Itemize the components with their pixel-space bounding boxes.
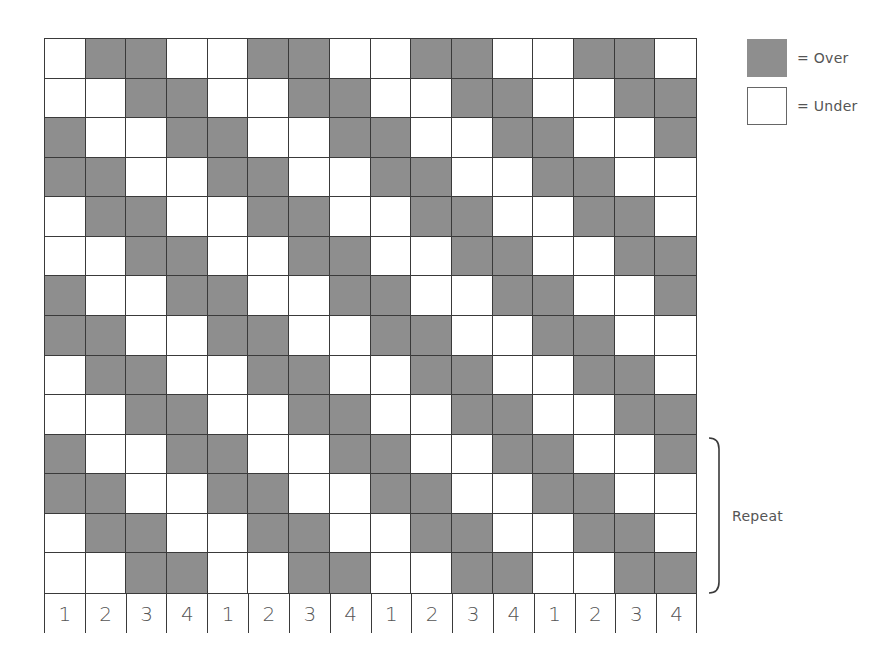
column-number: 1 xyxy=(207,594,248,633)
grid-cell xyxy=(493,356,534,396)
column-number: 2 xyxy=(411,594,452,633)
grid-cell xyxy=(452,474,493,514)
grid-cell xyxy=(330,553,371,593)
grid-cell xyxy=(371,276,412,316)
grid-cell xyxy=(45,356,86,396)
grid-cell xyxy=(574,276,615,316)
grid-cell xyxy=(493,435,534,475)
column-number: 4 xyxy=(656,594,697,633)
grid-cell xyxy=(452,197,493,237)
grid-cell xyxy=(289,553,330,593)
grid-cell xyxy=(45,474,86,514)
grid-cell xyxy=(452,553,493,593)
grid-cell xyxy=(167,356,208,396)
grid-cell xyxy=(330,237,371,277)
grid-cell xyxy=(208,356,249,396)
grid-cell xyxy=(248,197,289,237)
grid-cell xyxy=(615,237,656,277)
grid-cell xyxy=(574,395,615,435)
grid-cell xyxy=(126,79,167,119)
over-swatch xyxy=(747,39,787,77)
grid-cell xyxy=(126,118,167,158)
grid-cell xyxy=(126,395,167,435)
grid-cell xyxy=(248,276,289,316)
grid-cell xyxy=(452,356,493,396)
grid-cell xyxy=(289,395,330,435)
grid-cell xyxy=(411,79,452,119)
grid-cell xyxy=(493,197,534,237)
grid-cell xyxy=(167,237,208,277)
column-number: 3 xyxy=(452,594,493,633)
grid-cell xyxy=(574,158,615,198)
grid-cell xyxy=(615,395,656,435)
grid-cell xyxy=(86,158,127,198)
grid-cell xyxy=(493,553,534,593)
grid-cell xyxy=(452,316,493,356)
grid-cell xyxy=(86,395,127,435)
grid-cell xyxy=(289,158,330,198)
grid-cell xyxy=(615,435,656,475)
grid-cell xyxy=(45,514,86,554)
grid-cell xyxy=(371,316,412,356)
legend-over-label: = Over xyxy=(797,50,849,66)
grid-cell xyxy=(126,316,167,356)
grid-cell xyxy=(45,316,86,356)
column-number: 3 xyxy=(126,594,167,633)
grid-cell xyxy=(208,39,249,79)
grid-cell xyxy=(411,197,452,237)
grid-cell xyxy=(289,197,330,237)
grid-cell xyxy=(452,79,493,119)
grid-cell xyxy=(126,553,167,593)
grid-cell xyxy=(371,237,412,277)
grid-cell xyxy=(86,553,127,593)
grid-cell xyxy=(208,514,249,554)
grid-cell xyxy=(167,553,208,593)
grid-cell xyxy=(248,395,289,435)
grid-cell xyxy=(208,316,249,356)
grid-cell xyxy=(615,276,656,316)
grid-cell xyxy=(533,197,574,237)
grid-cell xyxy=(45,118,86,158)
grid-cell xyxy=(126,435,167,475)
grid-cell xyxy=(289,79,330,119)
grid-cell xyxy=(330,79,371,119)
grid-cell xyxy=(208,118,249,158)
column-number: 4 xyxy=(330,594,371,633)
grid-cell xyxy=(615,79,656,119)
grid-cell xyxy=(167,316,208,356)
grid-cell xyxy=(452,237,493,277)
grid-cell xyxy=(330,197,371,237)
grid-cell xyxy=(45,197,86,237)
grid-cell xyxy=(411,118,452,158)
grid-cell xyxy=(533,553,574,593)
grid-cell xyxy=(533,158,574,198)
grid-cell xyxy=(371,474,412,514)
grid-cell xyxy=(126,514,167,554)
grid-cell xyxy=(248,553,289,593)
under-swatch xyxy=(747,87,787,125)
grid-cell xyxy=(86,197,127,237)
grid-cell xyxy=(533,79,574,119)
repeat-label: Repeat xyxy=(732,508,783,524)
grid-cell xyxy=(371,39,412,79)
grid-cell xyxy=(615,356,656,396)
grid-cell xyxy=(248,435,289,475)
grid-cell xyxy=(126,39,167,79)
grid-cell xyxy=(655,356,696,396)
grid-cell xyxy=(493,79,534,119)
grid-cell xyxy=(411,395,452,435)
grid-cell xyxy=(371,435,412,475)
grid-cell xyxy=(330,435,371,475)
grid-cell xyxy=(452,276,493,316)
legend-under: = Under xyxy=(747,87,858,125)
grid-cell xyxy=(574,237,615,277)
grid-cell xyxy=(126,158,167,198)
grid-cell xyxy=(126,276,167,316)
grid-cell xyxy=(411,553,452,593)
grid-cell xyxy=(86,435,127,475)
grid-cell xyxy=(330,395,371,435)
grid-cell xyxy=(371,158,412,198)
grid-cell xyxy=(371,356,412,396)
grid-cell xyxy=(248,79,289,119)
grid-cell xyxy=(493,276,534,316)
